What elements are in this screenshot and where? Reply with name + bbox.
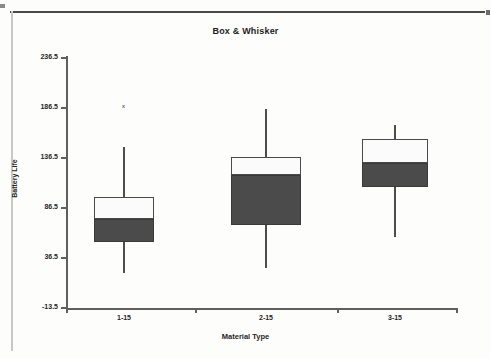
whisker-upper bbox=[265, 109, 267, 157]
y-tick-label: 86.5 bbox=[14, 203, 58, 213]
y-tick-mark bbox=[61, 207, 66, 209]
x-axis-title: Material Type bbox=[0, 332, 491, 341]
x-tick-mark bbox=[456, 308, 458, 313]
y-axis-line bbox=[66, 56, 68, 310]
box-lower-quartile bbox=[94, 219, 154, 242]
whisker-upper bbox=[123, 147, 125, 197]
box-lower-quartile bbox=[362, 163, 428, 187]
box-upper-quartile bbox=[362, 139, 428, 163]
whisker-lower bbox=[123, 242, 125, 273]
y-tick-label-text: 136.5 bbox=[18, 153, 58, 160]
y-tick-mark bbox=[61, 107, 66, 109]
y-tick-label-text: 36.5 bbox=[18, 253, 58, 260]
y-tick-mark bbox=[61, 157, 66, 159]
chart-title: Box & Whisker bbox=[0, 26, 491, 36]
y-tick-label-text: 86.5 bbox=[18, 203, 58, 210]
y-tick-label: 186.5 bbox=[14, 103, 58, 113]
box-upper-quartile bbox=[231, 157, 301, 175]
whisker-lower bbox=[265, 225, 267, 268]
x-axis-line bbox=[66, 308, 456, 310]
y-tick-mark bbox=[61, 257, 66, 259]
x-tick-label: 1-15 bbox=[94, 314, 154, 321]
x-tick-label: 2-15 bbox=[236, 314, 296, 321]
y-tick-label: 36.5 bbox=[14, 253, 58, 263]
whisker-lower bbox=[394, 187, 396, 237]
box-whisker-chart: Box & Whisker Battery Life Material Type… bbox=[0, 0, 491, 359]
y-tick-mark bbox=[61, 57, 66, 59]
box-lower-quartile bbox=[231, 175, 301, 225]
x-tick-mark bbox=[195, 308, 197, 313]
x-tick-mark bbox=[337, 308, 339, 313]
x-tick-label: 3-15 bbox=[365, 314, 425, 321]
x-tick-mark bbox=[66, 308, 68, 313]
y-tick-label: 136.5 bbox=[14, 153, 58, 163]
y-tick-label-text: -13.5 bbox=[18, 303, 58, 310]
y-tick-label-text: 236.5 bbox=[18, 53, 58, 60]
y-tick-label: -13.5 bbox=[14, 303, 58, 313]
box-upper-quartile bbox=[94, 197, 154, 219]
whisker-upper bbox=[394, 125, 396, 139]
scanned-page: Box & Whisker Battery Life Material Type… bbox=[0, 0, 491, 359]
y-tick-label-text: 186.5 bbox=[18, 103, 58, 110]
y-tick-label: 236.5 bbox=[14, 53, 58, 63]
outlier-marker: x bbox=[122, 103, 125, 109]
